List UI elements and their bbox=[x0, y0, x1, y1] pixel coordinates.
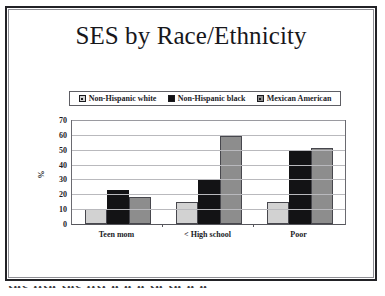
legend-entry: Non-Hispanic white bbox=[79, 94, 157, 103]
legend-swatch-icon bbox=[79, 95, 86, 102]
legend-label: Non-Hispanic black bbox=[178, 94, 246, 103]
x-axis-tick-labels: Teen mom< High schoolPoor bbox=[71, 230, 344, 239]
gridline bbox=[72, 209, 345, 210]
clipped-caption-text: the llth the lltl h h h th th h h bbox=[8, 286, 377, 292]
x-axis-tick-label: < High school bbox=[162, 230, 253, 239]
gridline bbox=[72, 179, 345, 180]
gridline bbox=[72, 120, 345, 121]
y-axis-tick-label: 0 bbox=[47, 220, 67, 229]
clipped-caption-row: the llth the lltl h h h th th h h bbox=[8, 286, 377, 296]
y-axis-tick-label: 70 bbox=[47, 116, 67, 125]
x-axis-tick-label: Teen mom bbox=[71, 230, 162, 239]
page-title: SES by Race/Ethnicity bbox=[7, 22, 375, 50]
bar bbox=[198, 179, 220, 224]
y-axis-tick-label: 30 bbox=[47, 175, 67, 184]
axis-tick-mark bbox=[253, 224, 254, 227]
bar bbox=[289, 151, 311, 224]
x-axis-tick-label: Poor bbox=[253, 230, 344, 239]
bar bbox=[176, 202, 198, 224]
plot-area bbox=[71, 120, 346, 225]
legend-swatch-icon bbox=[257, 95, 264, 102]
legend-entry: Mexican American bbox=[257, 94, 332, 103]
gridline bbox=[72, 150, 345, 151]
y-axis-tick-label: 60 bbox=[47, 130, 67, 139]
y-axis-tick-label: 20 bbox=[47, 190, 67, 199]
y-axis-tick-label: 40 bbox=[47, 160, 67, 169]
legend-entry: Non-Hispanic black bbox=[168, 94, 246, 103]
bar bbox=[267, 202, 289, 224]
gridline bbox=[72, 135, 345, 136]
y-axis-title: % bbox=[37, 171, 46, 179]
bar-chart: % 706050403020100 Teen mom< High schoolP… bbox=[35, 116, 355, 251]
gridline bbox=[72, 194, 345, 195]
y-axis-tick-labels: 706050403020100 bbox=[47, 116, 67, 224]
bar bbox=[85, 209, 107, 224]
bar bbox=[311, 148, 333, 224]
slide-frame: SES by Race/Ethnicity Non-Hispanic white… bbox=[5, 6, 377, 281]
axis-tick-mark bbox=[162, 224, 163, 227]
chart-legend: Non-Hispanic whiteNon-Hispanic blackMexi… bbox=[69, 91, 341, 106]
legend-label: Mexican American bbox=[267, 94, 332, 103]
legend-swatch-icon bbox=[168, 95, 175, 102]
y-axis-tick-label: 50 bbox=[47, 145, 67, 154]
gridline bbox=[72, 165, 345, 166]
legend-label: Non-Hispanic white bbox=[89, 94, 157, 103]
bar bbox=[129, 197, 151, 224]
y-axis-tick-label: 10 bbox=[47, 205, 67, 214]
